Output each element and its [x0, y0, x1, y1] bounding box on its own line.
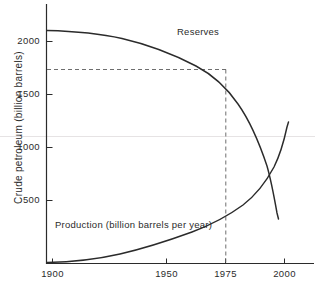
y-tick-label-500: 500 [0, 194, 40, 205]
production-series-label: Production (billion barrels per year) [55, 219, 212, 230]
chart-plot-area [0, 0, 315, 284]
x-tick-label-1950: 1950 [144, 268, 189, 279]
chart-figure: Crude petroleum (billion barrels) 2000 1… [0, 0, 315, 284]
x-tick-label-1900: 1900 [30, 268, 75, 279]
y-axis-ticks [47, 42, 53, 201]
y-tick-label-2000: 2000 [0, 35, 40, 46]
y-axis-label: Crude petroleum (billion barrels) [13, 48, 24, 208]
reserves-curve [47, 31, 279, 220]
x-tick-label-2000: 2000 [262, 268, 307, 279]
reserves-series-label: Reserves [177, 26, 219, 37]
y-tick-label-1000: 1000 [0, 141, 40, 152]
y-tick-label-1500: 1500 [0, 88, 40, 99]
production-curve [47, 122, 289, 263]
x-tick-label-1975: 1975 [203, 268, 248, 279]
